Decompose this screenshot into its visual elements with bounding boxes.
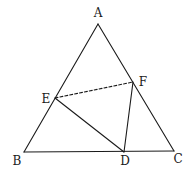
- vertex-label-c: C: [173, 153, 182, 165]
- segment-fd: [124, 82, 133, 152]
- vertex-label-a: A: [94, 7, 103, 19]
- segments-group: [24, 24, 174, 152]
- triangle-figure: [0, 0, 195, 179]
- point-label-f: F: [139, 76, 147, 88]
- point-label-e: E: [42, 93, 51, 105]
- segment-bc: [24, 151, 174, 152]
- segment-ed: [55, 98, 124, 152]
- geometry-diagram: A B C D E F: [0, 0, 195, 179]
- segment-ab: [24, 24, 98, 152]
- vertex-label-b: B: [13, 155, 22, 167]
- segment-ac: [98, 24, 174, 151]
- point-label-d: D: [120, 155, 130, 167]
- segment-ef: [55, 82, 133, 98]
